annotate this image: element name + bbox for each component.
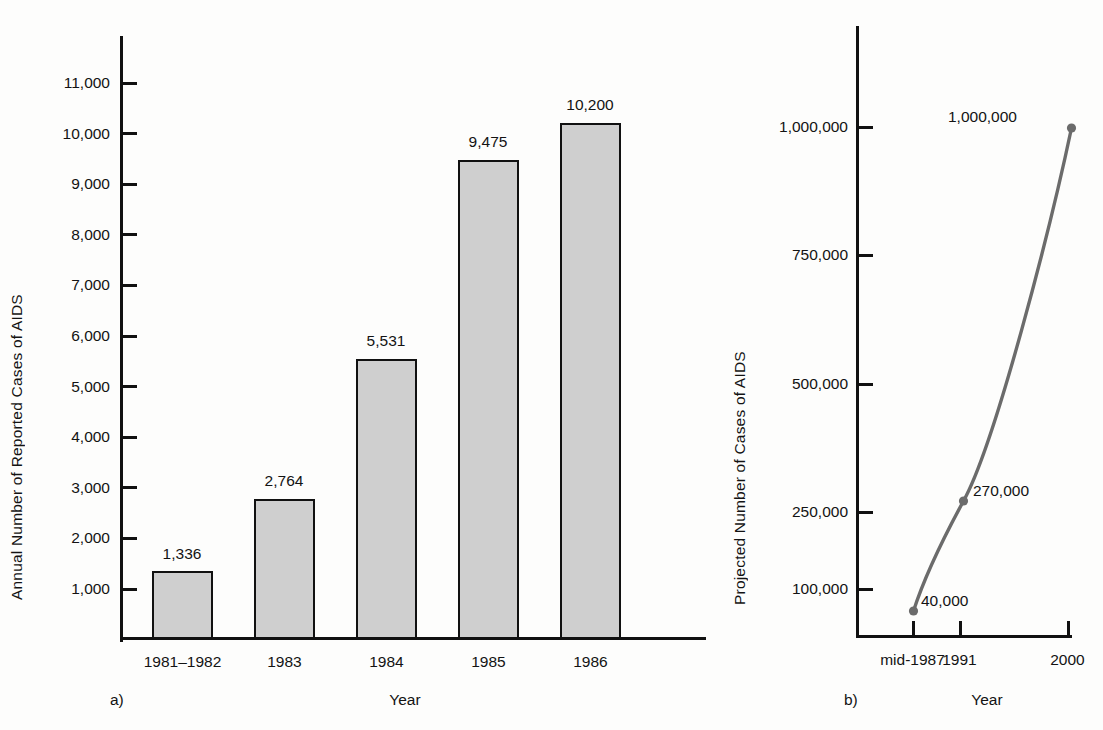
figure-root: Annual Number of Reported Cases of AIDS … [0, 0, 1103, 730]
panel-a-y-tick-label: 7,000 [20, 276, 110, 294]
x-tick-label-1991: 1991 [928, 651, 991, 669]
panel-a-x-axis-label: Year [350, 691, 460, 709]
point-value-label-1000000: 1,000,000 [948, 108, 1064, 126]
panel-a-y-tick [121, 82, 137, 85]
panel-a-letter: a) [110, 691, 124, 709]
bar-1981-1982[interactable] [152, 571, 213, 639]
data-point-2000 [1067, 123, 1076, 132]
panel-a-y-tick-label: 9,000 [20, 175, 110, 193]
bar-1986[interactable] [560, 123, 621, 639]
panel-a-y-tick [121, 537, 137, 540]
bar-1984[interactable] [356, 359, 417, 639]
panel-b-letter: b) [844, 691, 858, 709]
panel-a-y-tick [121, 588, 137, 591]
bar-value-label: 5,531 [326, 332, 446, 350]
panel-a-y-tick [121, 183, 137, 186]
panel-b-x-axis-label: Year [932, 691, 1042, 709]
panel-a-bar-chart: Annual Number of Reported Cases of AIDS … [0, 0, 720, 730]
panel-a-y-tick-label: 11,000 [20, 74, 110, 92]
panel-a-y-tick-label: 6,000 [20, 327, 110, 345]
panel-a-y-tick-label: 5,000 [20, 378, 110, 396]
bar-value-label: 2,764 [224, 472, 344, 490]
panel-a-y-tick [121, 335, 137, 338]
bar-1985[interactable] [458, 160, 519, 640]
panel-b-line-chart: Projected Number of Cases of AIDS 100,00… [720, 0, 1103, 730]
panel-a-y-tick [121, 436, 137, 439]
bar-1983[interactable] [254, 499, 315, 639]
x-tick-label-2000: 2000 [1036, 651, 1099, 669]
panel-a-y-tick [121, 284, 137, 287]
bar-value-label: 1,336 [122, 545, 242, 563]
bar-value-label: 10,200 [530, 96, 650, 114]
panel-a-y-tick-label: 3,000 [20, 479, 110, 497]
point-value-label-40000: 40,000 [921, 592, 1021, 610]
bar-value-label: 9,475 [428, 133, 548, 151]
panel-a-y-tick-label: 10,000 [20, 125, 110, 143]
panel-a-y-tick [121, 233, 137, 236]
panel-a-y-tick [121, 132, 137, 135]
x-category-label-1986: 1986 [530, 653, 651, 671]
panel-a-y-tick-label: 2,000 [20, 529, 110, 547]
data-point-mid-1987 [909, 606, 918, 615]
panel-a-y-tick [121, 486, 137, 489]
data-point-1991 [959, 496, 968, 505]
panel-a-y-tick-label: 4,000 [20, 428, 110, 446]
panel-a-y-tick [121, 385, 137, 388]
panel-a-y-tick-label: 1,000 [20, 580, 110, 598]
point-value-label-270000: 270,000 [973, 482, 1083, 500]
panel-a-y-tick-label: 8,000 [20, 226, 110, 244]
